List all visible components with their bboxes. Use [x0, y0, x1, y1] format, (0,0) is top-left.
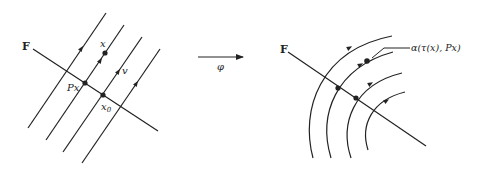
points-left: [82, 50, 107, 97]
point-x0: [100, 92, 105, 97]
point-px: [82, 80, 87, 85]
transversal-line-left: [33, 49, 158, 131]
point-px-label: Px: [66, 82, 80, 93]
flow-curve-2: [327, 52, 393, 158]
point-image-px: [335, 85, 340, 90]
point-x: [102, 50, 107, 55]
point-image-x0: [353, 95, 358, 100]
alpha-callout-label: α(τ(x), Px): [411, 42, 461, 53]
flow-curve-3: [347, 73, 402, 158]
flow-line-4: [82, 49, 160, 163]
arrow-icon: [346, 44, 353, 50]
flow-curve-1: [309, 36, 392, 158]
flow-box-diagram: F Px x v x0 φ F α(τ(x), Px): [0, 0, 486, 174]
phi-label: φ: [217, 61, 224, 72]
flow-arrows-left: [78, 45, 140, 87]
point-alpha: [364, 58, 370, 64]
vector-v-label: v: [122, 65, 128, 76]
point-x-label: x: [100, 38, 106, 49]
transversal-label-right: F: [280, 43, 288, 56]
left-diagram: [28, 13, 160, 163]
flow-line-1: [28, 13, 106, 128]
transversal-label-left: F: [22, 40, 30, 53]
point-x0-label: x0: [101, 101, 112, 114]
flow-arrows-right: [346, 44, 390, 104]
